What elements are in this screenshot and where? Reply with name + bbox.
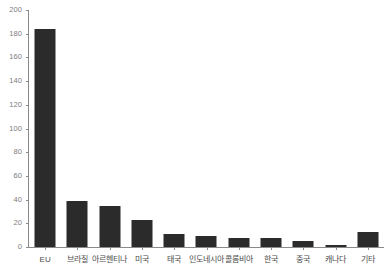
x-axis-tick-mark — [368, 247, 369, 250]
bar-slot — [29, 10, 61, 247]
plot-area — [29, 10, 384, 247]
y-axis-tick-label: 20 — [13, 218, 22, 227]
y-axis-tick-mark — [26, 247, 29, 248]
bar[interactable] — [196, 236, 217, 247]
x-axis-label: EU — [40, 254, 51, 265]
x-axis-label: 콜롬비아 — [225, 254, 253, 265]
x-axis-tick-mark — [336, 247, 337, 250]
y-axis-tick-label: 40 — [13, 195, 22, 204]
x-axis-label: 브라질 — [67, 254, 88, 265]
x-axis-tick-mark — [142, 247, 143, 250]
bar[interactable] — [99, 206, 120, 247]
y-axis-tick-label: 60 — [13, 171, 22, 180]
x-axis-label: 미국 — [135, 254, 149, 265]
bar-slot — [61, 10, 93, 247]
x-axis-tick-mark — [110, 247, 111, 250]
bar-slot — [190, 10, 222, 247]
bar[interactable] — [67, 201, 88, 247]
x-axis-label: 한국 — [264, 254, 278, 265]
bar-slot — [126, 10, 158, 247]
y-axis-tick-label: 140 — [9, 76, 22, 85]
bar[interactable] — [131, 220, 152, 247]
x-axis-label: 캐나다 — [325, 254, 346, 265]
x-axis-tick-mark — [271, 247, 272, 250]
bar-slot — [223, 10, 255, 247]
x-axis-label: 태국 — [167, 254, 181, 265]
x-axis-tick-mark — [303, 247, 304, 250]
bar[interactable] — [228, 238, 249, 247]
x-axis-label: 중국 — [296, 254, 310, 265]
x-axis-label: 기타 — [361, 254, 375, 265]
bar-chart: 020406080100120140160180200 EU브라질아르헨티나미국… — [0, 0, 390, 278]
bar-slot — [158, 10, 190, 247]
y-axis-tick-label: 200 — [9, 5, 22, 14]
bar[interactable] — [35, 29, 56, 247]
y-axis-tick-label: 180 — [9, 29, 22, 38]
y-axis-tick-label: 120 — [9, 100, 22, 109]
x-axis-tick-mark — [45, 247, 46, 250]
bar-slot — [287, 10, 319, 247]
y-axis-tick-label: 0 — [18, 242, 22, 251]
bar[interactable] — [164, 234, 185, 247]
x-axis-label: 인도네시아 — [189, 254, 224, 265]
x-axis-tick-mark — [207, 247, 208, 250]
x-axis-tick-mark — [239, 247, 240, 250]
bar-slot — [319, 10, 351, 247]
y-axis-tick-label: 100 — [9, 124, 22, 133]
y-axis-tick-label: 160 — [9, 52, 22, 61]
x-axis-label: 아르헨티나 — [92, 254, 127, 265]
bar[interactable] — [261, 238, 282, 247]
bar-slot — [352, 10, 384, 247]
bar[interactable] — [357, 232, 378, 247]
x-axis-tick-mark — [174, 247, 175, 250]
bar-slot — [94, 10, 126, 247]
y-axis-tick-label: 80 — [13, 147, 22, 156]
x-axis-tick-mark — [77, 247, 78, 250]
bar-slot — [255, 10, 287, 247]
